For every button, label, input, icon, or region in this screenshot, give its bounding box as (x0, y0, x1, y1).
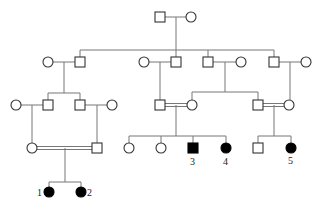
gen3-male-1 (43, 100, 53, 110)
pedigree-chart: 3 4 5 1 2 (0, 0, 320, 213)
gen4-male-2 (253, 143, 263, 153)
gen3-male-4 (253, 100, 263, 110)
gen1-male (155, 12, 165, 22)
label-3: 3 (190, 156, 195, 167)
gen4-affected-female-4 (221, 143, 231, 153)
gen4-male-1 (92, 143, 102, 153)
generation-1 (155, 12, 196, 50)
gen5-affected-female-1 (44, 187, 54, 197)
label-1: 1 (37, 187, 42, 198)
generation-3 (11, 100, 294, 110)
label-5: 5 (288, 155, 293, 166)
gen4-affected-female-5 (286, 143, 296, 153)
gen2-female-spouse-4 (301, 57, 311, 67)
gen2-male-4 (269, 57, 279, 67)
gen4-female-3 (156, 143, 166, 153)
gen3-female-3 (187, 100, 197, 110)
gen4-affected-male-3 (188, 143, 198, 153)
gen3-female-4 (284, 100, 294, 110)
gen2-male-2 (171, 57, 181, 67)
gen4-female-2 (124, 143, 134, 153)
gen3-female-spouse-2 (107, 100, 117, 110)
generation-2 (43, 57, 311, 67)
generation-5: 1 2 (37, 187, 92, 198)
gen2-male-1 (75, 57, 85, 67)
gen3-female-spouse-1 (11, 100, 21, 110)
gen4-female-1 (27, 143, 37, 153)
gen2-female-spouse-2 (139, 57, 149, 67)
gen2-male-3 (203, 57, 213, 67)
generation-4: 3 4 5 (27, 143, 296, 167)
gen2-female-spouse-3 (236, 57, 246, 67)
gen3-male-3 (155, 100, 165, 110)
label-2: 2 (87, 187, 92, 198)
gen3-male-2 (75, 100, 85, 110)
gen5-affected-female-2 (76, 187, 86, 197)
gen2-female-spouse-1 (43, 57, 53, 67)
gen1-female (186, 12, 196, 22)
label-4: 4 (223, 156, 228, 167)
